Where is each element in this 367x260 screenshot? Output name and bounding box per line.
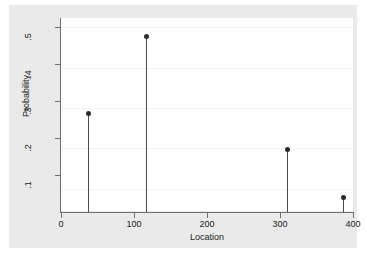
gridline (61, 108, 353, 109)
y-tick-mark (55, 175, 60, 176)
y-axis-title: Probability (21, 66, 31, 126)
data-point-marker (144, 34, 149, 39)
x-tick-label: 300 (260, 219, 300, 229)
x-tick-label: 0 (41, 219, 81, 229)
data-spike (88, 113, 89, 212)
y-tick-label: .5 (23, 26, 33, 48)
y-tick-mark (55, 64, 60, 65)
data-point-marker (341, 195, 346, 200)
gridline (61, 189, 353, 190)
x-tick-label: 100 (114, 219, 154, 229)
x-tick-mark (280, 213, 281, 218)
x-tick-label: 200 (187, 219, 227, 229)
y-axis-line (60, 18, 61, 213)
x-tick-label: 400 (333, 219, 367, 229)
graph-region: .1.2.3.4.5 0100200300400 Probability Loc… (9, 5, 357, 248)
x-tick-mark (207, 213, 208, 218)
x-axis-title: Location (60, 232, 354, 242)
y-tick-mark (55, 101, 60, 102)
gridline (61, 27, 353, 28)
data-point-marker (86, 111, 91, 116)
x-tick-mark (61, 213, 62, 218)
gridline (61, 68, 353, 69)
gridline (61, 148, 353, 149)
plot-area (61, 18, 353, 211)
y-tick-mark (55, 138, 60, 139)
y-tick-mark (55, 27, 60, 28)
y-tick-label: .1 (23, 174, 33, 196)
x-tick-mark (134, 213, 135, 218)
x-tick-mark (353, 213, 354, 218)
data-point-marker (285, 147, 290, 152)
data-spike (287, 149, 288, 212)
y-tick-label: .2 (23, 137, 33, 159)
chart-figure: .1.2.3.4.5 0100200300400 Probability Loc… (0, 0, 367, 260)
data-spike (146, 37, 147, 212)
